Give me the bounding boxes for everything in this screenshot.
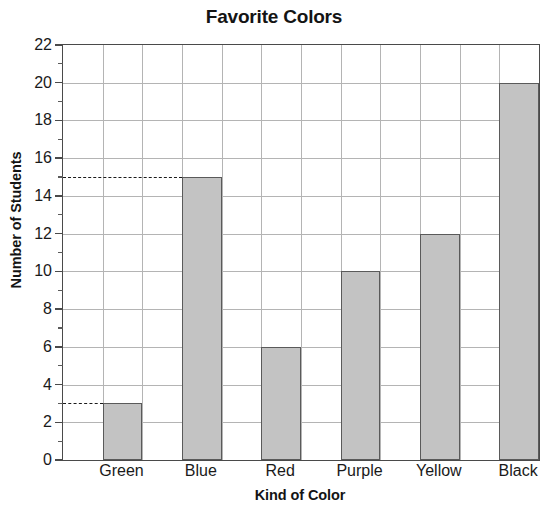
y-tick-label: 10 <box>34 262 52 280</box>
y-tick-label: 8 <box>43 300 52 318</box>
y-tick-minor <box>58 327 63 328</box>
plot-area: 0246810121416182022 <box>62 44 540 461</box>
y-tick-major <box>55 44 63 45</box>
y-tick-minor <box>58 176 63 177</box>
y-tick-label: 4 <box>43 376 52 394</box>
x-tick-label-green: Green <box>99 462 143 480</box>
x-tick-label-purple: Purple <box>336 462 382 480</box>
bar-chart-figure: Favorite Colors Number of Students 02468… <box>0 0 548 516</box>
dashed-guide-15 <box>63 177 182 178</box>
y-tick-minor <box>58 441 63 442</box>
y-tick-major <box>55 195 63 196</box>
y-tick-minor <box>58 214 63 215</box>
y-tick-label: 12 <box>34 225 52 243</box>
y-tick-minor <box>58 101 63 102</box>
chart-title: Favorite Colors <box>0 6 548 28</box>
y-tick-minor <box>58 403 63 404</box>
y-tick-major <box>55 82 63 83</box>
y-tick-minor <box>58 63 63 64</box>
y-tick-label: 2 <box>43 413 52 431</box>
y-tick-major <box>55 157 63 158</box>
y-tick-label: 16 <box>34 149 52 167</box>
y-tick-major <box>55 120 63 121</box>
y-tick-label: 22 <box>34 36 52 54</box>
y-tick-minor <box>58 252 63 253</box>
x-tick-label-black: Black <box>499 462 538 480</box>
y-tick-major <box>55 233 63 234</box>
y-tick-major <box>55 346 63 347</box>
y-tick-minor <box>58 139 63 140</box>
dashed-guide-3 <box>63 403 103 404</box>
annotation-guides <box>63 45 539 460</box>
y-tick-major <box>55 459 63 460</box>
y-tick-label: 6 <box>43 338 52 356</box>
x-tick-label-red: Red <box>265 462 294 480</box>
y-tick-label: 0 <box>43 451 52 469</box>
y-tick-major <box>55 271 63 272</box>
y-tick-label: 18 <box>34 111 52 129</box>
y-tick-minor <box>58 290 63 291</box>
y-tick-major <box>55 384 63 385</box>
y-tick-major <box>55 422 63 423</box>
x-tick-label-yellow: Yellow <box>416 462 462 480</box>
y-tick-minor <box>58 365 63 366</box>
x-axis-title: Kind of Color <box>62 487 538 503</box>
y-tick-label: 14 <box>34 187 52 205</box>
y-axis-title: Number of Students <box>8 120 24 320</box>
y-tick-major <box>55 308 63 309</box>
x-tick-label-blue: Blue <box>185 462 217 480</box>
y-tick-label: 20 <box>34 74 52 92</box>
